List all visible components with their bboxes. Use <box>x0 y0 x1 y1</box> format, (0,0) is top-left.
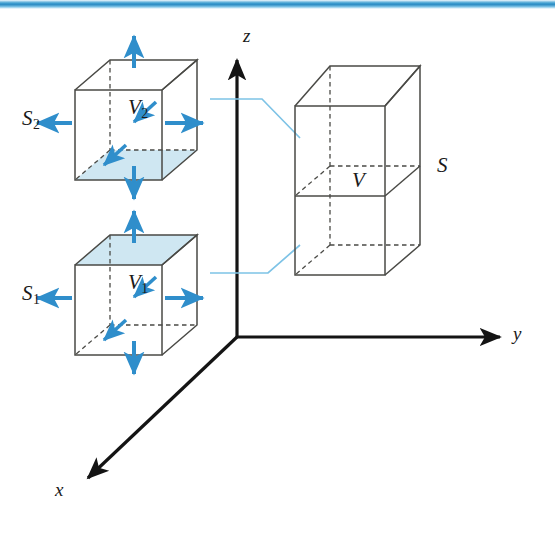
figure-root: S2 S1 V2 V1 V S z y x <box>0 0 555 533</box>
label-S2: S2 <box>22 108 40 132</box>
arrow-v1-back-lower <box>104 320 126 340</box>
axis-label-z: z <box>243 26 250 45</box>
label-V: V <box>352 170 365 191</box>
label-V2: V2 <box>128 97 148 121</box>
label-S: S <box>437 155 448 176</box>
diagram-canvas <box>0 0 555 533</box>
axis-label-x: x <box>55 480 63 499</box>
axis-label-y: y <box>513 324 521 343</box>
connector-upper <box>210 99 300 138</box>
axis-x <box>88 337 237 478</box>
label-S1: S1 <box>22 283 40 307</box>
label-V1: V1 <box>128 272 148 296</box>
connector-lower <box>210 245 300 273</box>
